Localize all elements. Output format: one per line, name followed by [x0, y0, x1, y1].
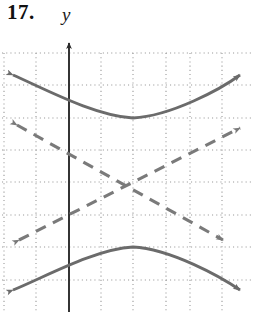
hyperbola-plot [0, 0, 254, 312]
figure-root: 17. y [0, 0, 254, 312]
hyperbola-upper-branch [13, 75, 240, 118]
hyperbola-lower-branch [13, 247, 240, 290]
asymptote-negative-slope [17, 125, 223, 240]
